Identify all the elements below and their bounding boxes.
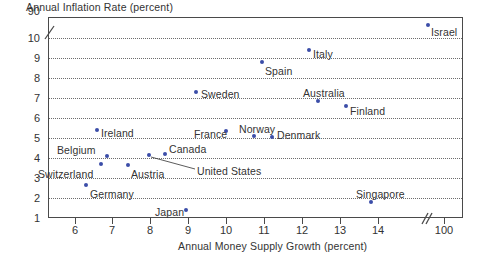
y-axis-tick-label: 2	[14, 192, 40, 204]
data-point-label-switzerland: Switzerland	[38, 168, 93, 180]
x-axis-tick-label: 10	[213, 224, 239, 236]
y-axis-tick-label: 3	[14, 172, 40, 184]
data-point-label-canada: Canada	[169, 143, 206, 155]
data-point-label-singapore: Singapore	[356, 188, 405, 200]
y-axis-tick-label: 5	[14, 132, 40, 144]
y-axis-tick-label: 4	[14, 152, 40, 164]
data-point-label-germany: Germany	[90, 188, 134, 200]
data-point-label-israel: Israel	[431, 26, 457, 38]
y-axis-tick-label: 1	[14, 212, 40, 224]
data-point-label-austria: Austria	[131, 168, 164, 180]
data-point-label-denmark: Denmark	[277, 129, 320, 141]
y-axis-tick-label: 10	[14, 32, 40, 44]
x-axis-tick-label: 14	[365, 224, 391, 236]
y-axis-tick-label: 90	[14, 5, 40, 17]
y-axis-tick-label: 9	[14, 52, 40, 64]
y-axis-tick-label: 6	[14, 112, 40, 124]
scatter-chart: Annual Inflation Rate (percent) 90109876…	[0, 0, 484, 259]
data-point-label-australia: Australia	[303, 87, 345, 99]
gridline	[49, 78, 462, 79]
x-axis-tick-label: 6	[62, 224, 88, 236]
data-point-label-spain: Spain	[265, 65, 292, 77]
gridline	[49, 158, 462, 159]
gridline	[49, 98, 462, 99]
data-point-label-ireland: Ireland	[101, 127, 134, 139]
data-point-label-belgium: Belgium	[57, 144, 96, 156]
data-point-label-united-states: United States	[197, 165, 261, 177]
x-axis-tick-label: 13	[327, 224, 353, 236]
data-point-label-italy: Italy	[313, 48, 333, 60]
y-axis-title: Annual Inflation Rate (percent)	[26, 1, 173, 13]
x-axis-title: Annual Money Supply Growth (percent)	[178, 240, 367, 252]
data-point-label-sweden: Sweden	[201, 88, 240, 100]
data-point-label-norway: Norway	[239, 123, 275, 135]
x-axis-tick-label: 9	[175, 224, 201, 236]
data-point-label-japan: Japan	[155, 206, 184, 218]
x-axis-tick-label: 11	[251, 224, 277, 236]
x-axis-tick-label: 7	[99, 224, 125, 236]
gridline	[49, 178, 462, 179]
y-axis-tick-label: 7	[14, 92, 40, 104]
gridline	[49, 118, 462, 119]
x-axis-tick-label: 8	[137, 224, 163, 236]
x-axis-tick-label: 12	[289, 224, 315, 236]
y-axis-tick-label: 8	[14, 72, 40, 84]
data-point-label-france: France	[194, 128, 227, 140]
gridline	[49, 38, 462, 39]
x-axis-break-icon	[419, 212, 435, 226]
data-point-label-finland: Finland	[350, 105, 385, 117]
y-axis-break-icon	[43, 24, 57, 41]
gridline	[49, 58, 462, 59]
